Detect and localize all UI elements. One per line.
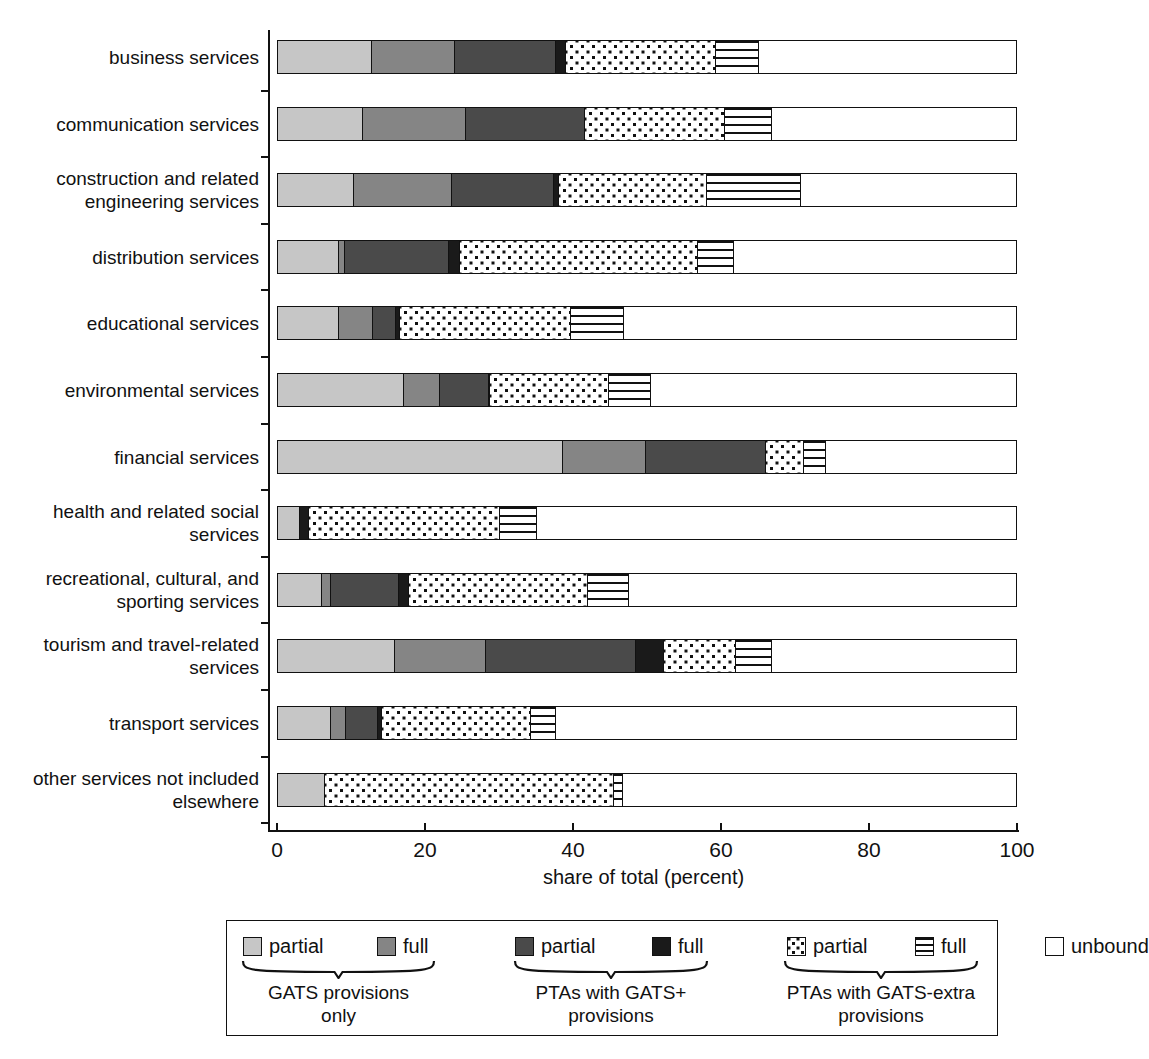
y-tick — [261, 356, 269, 358]
bar-segment-ptaplus_partial — [485, 640, 635, 672]
y-tick — [261, 689, 269, 691]
bar-segment-gats_partial — [278, 574, 321, 606]
stacked-bar — [277, 706, 1017, 740]
bar-row-label: business services — [0, 46, 259, 69]
bar-segment-ptaextra_full — [735, 640, 771, 672]
bar-segment-ptaplus_partial — [344, 241, 449, 273]
bar-segment-ptaextra_partial — [584, 108, 724, 140]
bar-row-label: environmental services — [0, 379, 259, 402]
bar-segment-ptaplus_partial — [645, 441, 765, 473]
bar-segment-ptaextra_partial — [459, 241, 697, 273]
bar-segment-ptaextra_partial — [765, 441, 803, 473]
stacked-bar — [277, 173, 1017, 207]
bar-row-label: communication services — [0, 112, 259, 135]
legend-swatch-black — [652, 937, 671, 956]
bar-row-label: health and related social services — [0, 500, 259, 546]
stacked-bar — [277, 773, 1017, 807]
bar-segment-gats_full — [562, 441, 645, 473]
x-tick-label: 100 — [987, 838, 1047, 862]
legend-swatch-dots — [787, 937, 806, 956]
bar-segment-ptaplus_full — [555, 41, 565, 73]
x-tick-40 — [572, 823, 574, 832]
legend-swatch-white — [1045, 937, 1064, 956]
x-tick-0 — [276, 823, 278, 832]
bar-segment-ptaextra_full — [715, 41, 758, 73]
bar-segment-unbound — [555, 707, 1016, 739]
bar-segment-unbound — [733, 241, 1016, 273]
bar-segment-ptaplus_partial — [345, 707, 377, 739]
x-tick-100 — [1016, 823, 1018, 832]
bar-segment-gats_full — [362, 108, 465, 140]
legend-group-label: GATS provisions only — [229, 981, 448, 1027]
bar-row-label: financial services — [0, 445, 259, 468]
stacked-bar — [277, 373, 1017, 407]
legend-swatch-light-grey — [243, 937, 262, 956]
legend-entry: full — [377, 935, 429, 958]
bar-segment-ptaplus_partial — [451, 174, 553, 206]
legend-entry: partial — [243, 935, 323, 958]
x-tick-label: 40 — [543, 838, 603, 862]
bar-segment-unbound — [771, 640, 1016, 672]
bar-segment-ptaextra_full — [587, 574, 628, 606]
bar-segment-ptaextra_full — [613, 774, 622, 806]
bar-row: construction and related engineering ser… — [0, 167, 1049, 213]
legend-swatch-horizontal-stripes — [915, 937, 934, 956]
bar-segment-ptaextra_partial — [663, 640, 735, 672]
stacked-bar — [277, 240, 1017, 274]
bar-segment-ptaextra_partial — [408, 574, 587, 606]
bar-row: business services — [0, 34, 1049, 80]
legend-brace — [241, 961, 436, 981]
y-tick — [261, 423, 269, 425]
y-tick — [261, 156, 269, 158]
bar-segment-ptaextra_full — [530, 707, 556, 739]
bar-row: health and related social services — [0, 500, 1049, 546]
bar-segment-unbound — [800, 174, 1016, 206]
stacked-bar — [277, 107, 1017, 141]
bar-segment-unbound — [536, 507, 1016, 539]
bar-segment-ptaextra_partial — [399, 307, 569, 339]
bar-row-label: tourism and travel-related services — [0, 633, 259, 679]
bar-row-label: recreational, cultural, and sporting ser… — [0, 567, 259, 613]
x-tick-label: 80 — [839, 838, 899, 862]
bar-segment-gats_partial — [278, 174, 353, 206]
bar-row: recreational, cultural, and sporting ser… — [0, 567, 1049, 613]
bar-segment-gats_full — [330, 707, 346, 739]
bar-segment-ptaplus_partial — [454, 41, 556, 73]
legend-brace — [513, 961, 709, 981]
bar-segment-ptaextra_full — [697, 241, 732, 273]
bar-row: financial services — [0, 434, 1049, 480]
stacked-bar — [277, 506, 1017, 540]
bar-segment-gats_full — [403, 374, 438, 406]
legend-group-label: PTAs with GATS-extra provisions — [771, 981, 991, 1027]
bar-segment-gats_partial — [278, 640, 394, 672]
x-tick-80 — [868, 823, 870, 832]
bar-segment-ptaextra_partial — [489, 374, 608, 406]
bar-segment-ptaextra_partial — [308, 507, 498, 539]
bar-segment-ptaplus_full — [398, 574, 408, 606]
bar-segment-ptaplus_partial — [465, 108, 584, 140]
stacked-bar — [277, 573, 1017, 607]
bar-row-label: other services not included elsewhere — [0, 767, 259, 813]
chart-legend: partialfullpartialfullpartialfullunbound… — [226, 920, 998, 1036]
bar-row-label: educational services — [0, 312, 259, 335]
bar-segment-ptaextra_partial — [324, 774, 613, 806]
bar-segment-ptaextra_full — [499, 507, 536, 539]
legend-entry: full — [915, 935, 967, 958]
bar-segment-unbound — [623, 307, 1016, 339]
legend-group-label: PTAs with GATS+ provisions — [501, 981, 721, 1027]
y-tick — [261, 223, 269, 225]
legend-label: partial — [269, 935, 323, 958]
bar-segment-ptaplus_full — [448, 241, 458, 273]
bar-segment-gats_partial — [278, 374, 403, 406]
legend-entry: partial — [515, 935, 595, 958]
bar-row: tourism and travel-related services — [0, 633, 1049, 679]
bar-row-label: construction and related engineering ser… — [0, 167, 259, 213]
bar-row-label: distribution services — [0, 245, 259, 268]
bar-segment-gats_partial — [278, 707, 330, 739]
bar-segment-gats_partial — [278, 774, 324, 806]
bar-segment-ptaextra_partial — [381, 707, 530, 739]
bar-segment-gats_partial — [278, 108, 362, 140]
legend-swatch-mid-grey — [377, 937, 396, 956]
bar-segment-unbound — [758, 41, 1016, 73]
legend-label: full — [403, 935, 429, 958]
